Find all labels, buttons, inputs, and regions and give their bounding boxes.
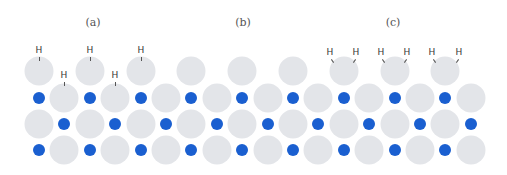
small-atom xyxy=(185,144,197,156)
large-atom xyxy=(50,136,79,165)
large-atom xyxy=(50,84,79,113)
large-atom xyxy=(253,84,282,113)
small-atom xyxy=(160,118,172,130)
large-atom xyxy=(177,110,206,139)
large-atom xyxy=(228,57,257,86)
small-atom xyxy=(262,118,274,130)
small-atom xyxy=(389,144,401,156)
hydrogen-label: H xyxy=(429,48,436,57)
large-atom xyxy=(152,136,181,165)
small-atom xyxy=(338,92,350,104)
large-atom xyxy=(329,110,358,139)
large-atom xyxy=(456,84,485,113)
small-atom xyxy=(84,92,96,104)
panel-label-c: (c) xyxy=(386,16,401,29)
hydrogen-bond-line xyxy=(115,82,116,86)
large-atom xyxy=(253,136,282,165)
large-atom xyxy=(101,136,130,165)
large-atom xyxy=(126,110,155,139)
small-atom xyxy=(33,92,45,104)
hydrogen-label: H xyxy=(327,48,334,57)
small-atom xyxy=(135,92,147,104)
large-atom xyxy=(355,84,384,113)
hydrogen-label: H xyxy=(36,46,43,55)
large-atom xyxy=(304,84,333,113)
hydrogen-bond-line xyxy=(90,57,91,61)
large-atom xyxy=(75,110,104,139)
large-atom xyxy=(279,57,308,86)
hydrogen-label: H xyxy=(378,48,385,57)
large-atom xyxy=(202,136,231,165)
hydrogen-bond-line xyxy=(39,57,40,61)
large-atom xyxy=(202,84,231,113)
hydrogen-bond-line xyxy=(64,82,65,86)
small-atom xyxy=(389,92,401,104)
large-atom xyxy=(304,136,333,165)
large-atom xyxy=(25,110,54,139)
small-atom xyxy=(58,118,70,130)
small-atom xyxy=(287,92,299,104)
large-atom xyxy=(380,110,409,139)
small-atom xyxy=(185,92,197,104)
small-atom xyxy=(287,144,299,156)
small-atom xyxy=(439,92,451,104)
small-atom xyxy=(439,144,451,156)
hydrogen-label: H xyxy=(87,46,94,55)
hydrogen-label: H xyxy=(112,71,119,80)
large-atom xyxy=(406,84,435,113)
small-atom xyxy=(211,118,223,130)
small-atom xyxy=(109,118,121,130)
hydrogen-label: H xyxy=(456,48,463,57)
small-atom xyxy=(84,144,96,156)
surface-diagram: (a) (b) (c) HHHHHHHHHHH xyxy=(0,0,507,175)
large-atom xyxy=(177,57,206,86)
small-atom xyxy=(414,118,426,130)
small-atom xyxy=(33,144,45,156)
small-atom xyxy=(338,144,350,156)
hydrogen-bond-line xyxy=(141,57,142,61)
large-atom xyxy=(228,110,257,139)
large-atom xyxy=(406,136,435,165)
small-atom xyxy=(236,92,248,104)
large-atom xyxy=(152,84,181,113)
hydrogen-label: H xyxy=(404,48,411,57)
panel-label-b: (b) xyxy=(235,16,251,29)
hydrogen-label: H xyxy=(138,46,145,55)
small-atom xyxy=(363,118,375,130)
large-atom xyxy=(456,136,485,165)
small-atom xyxy=(312,118,324,130)
large-atom xyxy=(279,110,308,139)
hydrogen-label: H xyxy=(61,71,68,80)
small-atom xyxy=(465,118,477,130)
small-atom xyxy=(135,144,147,156)
large-atom xyxy=(101,84,130,113)
large-atom xyxy=(355,136,384,165)
panel-label-a: (a) xyxy=(85,16,100,29)
small-atom xyxy=(236,144,248,156)
hydrogen-label: H xyxy=(353,48,360,57)
large-atom xyxy=(431,110,460,139)
